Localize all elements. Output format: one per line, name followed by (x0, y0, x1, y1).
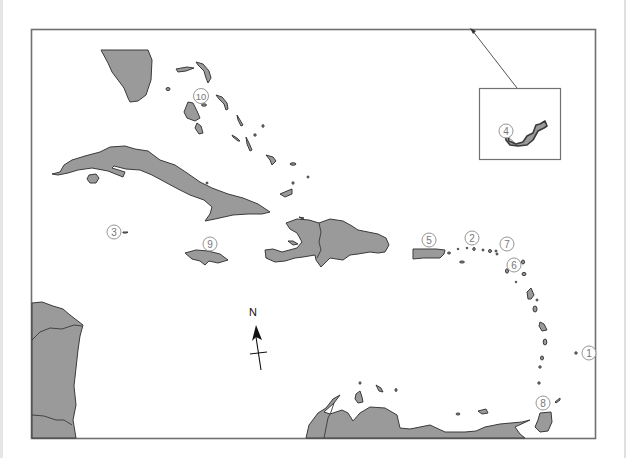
bahamas-islet (166, 88, 170, 91)
svg-text:4: 4 (503, 126, 509, 137)
puerto-rico (413, 249, 445, 259)
islet (206, 182, 208, 184)
north-label: N (249, 306, 257, 318)
map-label-1[interactable]: 1 (582, 346, 596, 360)
bahamas-islet (290, 163, 296, 165)
bahamas-islet (254, 134, 256, 136)
map-label-4[interactable]: 4 (499, 124, 513, 138)
bahamas-islet (202, 104, 207, 106)
map-label-6[interactable]: 6 (507, 258, 521, 272)
map-label-8[interactable]: 8 (536, 396, 550, 410)
bahamas-islet (262, 125, 264, 128)
isla-de-la-juventud (87, 174, 99, 183)
svg-text:8: 8 (540, 398, 546, 409)
svg-text:2: 2 (469, 233, 475, 244)
svg-text:1: 1 (586, 348, 592, 359)
map-label-3[interactable]: 3 (107, 225, 121, 239)
islet (123, 232, 128, 233)
svg-text:7: 7 (504, 239, 510, 250)
inset-frame (480, 89, 561, 160)
bahamas-islet (292, 182, 294, 185)
map-label-2[interactable]: 2 (465, 231, 479, 245)
svg-text:9: 9 (207, 239, 213, 250)
svg-text:3: 3 (111, 227, 117, 238)
map-label-7[interactable]: 7 (500, 237, 514, 251)
svg-text:6: 6 (511, 260, 517, 271)
map-label-10[interactable]: 10 (194, 89, 209, 104)
svg-text:5: 5 (426, 235, 432, 246)
svg-text:10: 10 (196, 91, 207, 102)
bahamas-islet (307, 176, 309, 178)
map-label-9[interactable]: 9 (203, 237, 217, 251)
map-label-5[interactable]: 5 (422, 233, 436, 247)
caribbean-map: N 1 2 3 4 5 6 7 8 9 10 (0, 0, 630, 458)
